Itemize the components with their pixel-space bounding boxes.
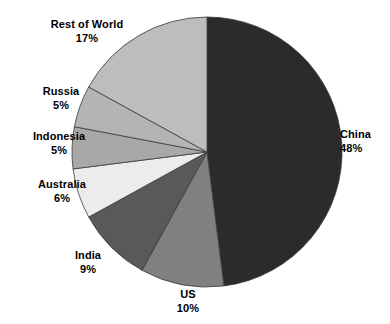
slice-label-percent: 10% bbox=[144, 302, 232, 316]
slice-label-name: Russia bbox=[6, 85, 116, 99]
pie-chart-figure: Rest of World 17% Russia 5% Indonesia 5%… bbox=[0, 0, 390, 324]
slice-label-name: Indonesia bbox=[0, 130, 118, 144]
slice-label-china: China 48% bbox=[340, 128, 390, 156]
slice-label-name: China bbox=[340, 128, 390, 142]
slice-label-percent: 6% bbox=[4, 192, 120, 206]
slice-label-us: US 10% bbox=[144, 288, 232, 316]
slice-label-india: India 9% bbox=[40, 249, 136, 277]
slice-label-name: Australia bbox=[4, 178, 120, 192]
slice-label-percent: 17% bbox=[22, 32, 152, 46]
slice-label-russia: Russia 5% bbox=[6, 85, 116, 113]
slice-label-name: Rest of World bbox=[22, 18, 152, 32]
slice-label-indonesia: Indonesia 5% bbox=[0, 130, 118, 158]
slice-label-name: US bbox=[144, 288, 232, 302]
slice-label-name: India bbox=[40, 249, 136, 263]
slice-label-percent: 5% bbox=[6, 99, 116, 113]
slice-label-percent: 5% bbox=[0, 144, 118, 158]
pie-slice-china bbox=[207, 17, 342, 286]
slice-label-percent: 48% bbox=[340, 142, 390, 156]
slice-label-percent: 9% bbox=[40, 263, 136, 277]
slice-label-rest-of-world: Rest of World 17% bbox=[22, 18, 152, 46]
slice-label-australia: Australia 6% bbox=[4, 178, 120, 206]
